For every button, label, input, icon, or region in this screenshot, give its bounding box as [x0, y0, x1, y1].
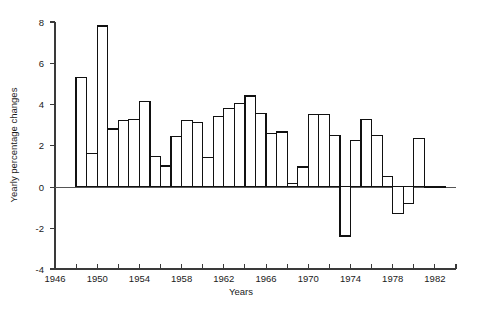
bar — [256, 114, 267, 187]
bar — [319, 115, 330, 187]
y-axis-title: Yearly percentage changes — [8, 87, 19, 202]
bar — [203, 158, 214, 187]
bar — [266, 133, 277, 187]
bar — [393, 187, 404, 214]
bar — [329, 135, 340, 186]
bar — [129, 120, 140, 187]
bar — [298, 167, 309, 187]
bar — [234, 103, 245, 186]
y-tick-label: -2 — [36, 223, 44, 234]
bar — [139, 101, 150, 186]
x-axis-title: Years — [229, 286, 253, 297]
x-tick-label: 1974 — [340, 273, 361, 284]
bar — [308, 115, 319, 187]
bar — [414, 138, 425, 186]
x-axis-ticks — [55, 264, 456, 269]
x-tick-label: 1962 — [213, 273, 234, 284]
bar — [182, 121, 193, 187]
bar — [87, 154, 98, 187]
bar — [192, 123, 203, 187]
x-axis-tick-labels: 1946195019541958196219661970197419781982 — [44, 273, 445, 284]
bar — [424, 187, 435, 188]
bar — [171, 136, 182, 186]
bar — [224, 108, 235, 186]
x-tick-label: 1970 — [298, 273, 319, 284]
bar — [108, 129, 119, 187]
y-tick-label: 0 — [39, 182, 44, 193]
bar — [213, 117, 224, 187]
bar — [150, 157, 161, 187]
bar — [350, 140, 361, 186]
y-tick-label: 6 — [39, 58, 44, 69]
bar — [277, 132, 288, 187]
x-tick-label: 1954 — [129, 273, 150, 284]
y-axis-tick-labels: 8 6 4 2 0 -2 -4 — [36, 17, 44, 275]
bar — [97, 26, 108, 187]
bar — [118, 121, 129, 187]
x-tick-label: 1958 — [171, 273, 192, 284]
y-tick-label: 4 — [39, 99, 44, 110]
x-tick-label: 1966 — [255, 273, 276, 284]
bar-chart-svg: 8 6 4 2 0 -2 -4 194619501954195819621966… — [0, 0, 483, 309]
bar — [245, 96, 256, 187]
bar — [403, 187, 414, 203]
bar — [287, 184, 298, 187]
bar — [361, 120, 372, 187]
bar-series — [76, 26, 445, 236]
bar — [76, 78, 87, 187]
y-tick-label: 8 — [39, 17, 44, 28]
y-axis-ticks — [50, 22, 55, 269]
x-tick-label: 1982 — [424, 273, 445, 284]
x-tick-label: 1978 — [382, 273, 403, 284]
bar — [435, 187, 446, 188]
x-tick-label: 1946 — [44, 273, 65, 284]
chart-figure: 8 6 4 2 0 -2 -4 194619501954195819621966… — [0, 0, 483, 309]
bar — [372, 135, 383, 186]
bar — [382, 176, 393, 186]
bar — [340, 187, 351, 236]
y-tick-label: 2 — [39, 140, 44, 151]
bar — [161, 166, 172, 187]
x-tick-label: 1950 — [87, 273, 108, 284]
y-tick-label: -4 — [36, 264, 44, 275]
